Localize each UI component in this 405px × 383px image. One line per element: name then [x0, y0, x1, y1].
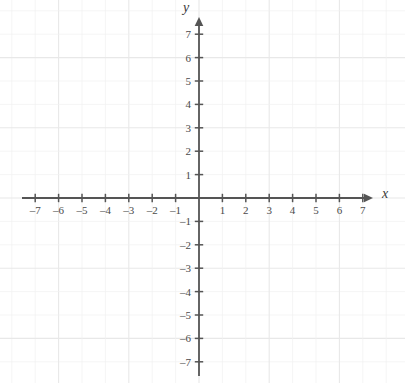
y-tick-label: 6	[186, 52, 192, 63]
y-axis-label: y	[183, 1, 189, 15]
x-tick-label: –4	[100, 205, 111, 216]
y-tick-label: –6	[180, 333, 191, 344]
x-tick-label: –6	[53, 205, 64, 216]
x-tick-label: 3	[266, 205, 272, 216]
y-tick-label: 3	[186, 122, 192, 133]
x-tick-label: –7	[30, 205, 41, 216]
coordinate-plane-figure: –7–6–5–4–3–2–11234567 7654321–1–2–3–4–5–…	[0, 0, 405, 383]
y-tick-label: –7	[180, 356, 191, 367]
x-tick-label: 7	[360, 205, 366, 216]
y-tick-label: 2	[186, 146, 192, 157]
x-tick-label: 2	[243, 205, 249, 216]
y-tick-label: –4	[180, 286, 191, 297]
coordinate-plane-graphics	[0, 0, 405, 383]
x-tick-label: 1	[220, 205, 226, 216]
y-tick-label: –1	[180, 216, 191, 227]
x-tick-label: –5	[77, 205, 88, 216]
x-tick-label: 4	[290, 205, 296, 216]
x-axis-label: x	[382, 187, 388, 201]
y-tick-label: 1	[186, 169, 192, 180]
x-tick-label: –3	[123, 205, 134, 216]
y-tick-label: 4	[186, 99, 192, 110]
y-tick-label: 5	[186, 76, 192, 87]
y-tick-label: –2	[180, 239, 191, 250]
x-tick-label: –2	[147, 205, 158, 216]
y-tick-label: –5	[180, 310, 191, 321]
x-tick-label: 6	[337, 205, 343, 216]
y-tick-label: –3	[180, 263, 191, 274]
y-tick-label: 7	[186, 29, 192, 40]
x-tick-label: 5	[313, 205, 319, 216]
